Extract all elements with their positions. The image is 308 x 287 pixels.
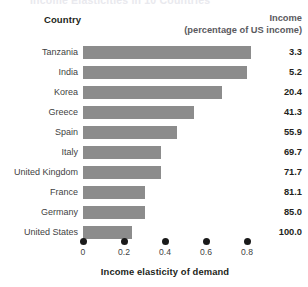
tick-dot-icon	[203, 238, 210, 245]
country-label: United Kingdom	[0, 167, 78, 177]
chart-row: Spain55.9	[0, 124, 308, 144]
bar-track	[83, 146, 253, 159]
tick-label: 0.2	[108, 247, 140, 257]
income-value: 100.0	[250, 227, 302, 237]
tick-label: 0.4	[149, 247, 181, 257]
chart-row: Korea20.4	[0, 84, 308, 104]
country-label: Korea	[0, 87, 78, 97]
tick-label: 0.8	[231, 247, 263, 257]
country-label: India	[0, 67, 78, 77]
bar-track	[83, 186, 253, 199]
column-header-country: Country	[44, 14, 81, 25]
country-label: Tanzania	[0, 47, 78, 57]
tick-label: 0	[67, 247, 99, 257]
chart-row: United Kingdom71.7	[0, 164, 308, 184]
income-value: 71.7	[250, 167, 302, 177]
country-label: Greece	[0, 107, 78, 117]
bar	[83, 126, 177, 139]
tick-dot-icon	[121, 238, 128, 245]
country-label: Italy	[0, 147, 78, 157]
country-label: Spain	[0, 127, 78, 137]
income-value: 41.3	[250, 107, 302, 117]
column-header-income: Income (percentage of US income)	[132, 13, 302, 36]
bar	[83, 166, 161, 179]
bar	[83, 146, 161, 159]
chart-row: Italy69.7	[0, 144, 308, 164]
country-label: France	[0, 187, 78, 197]
bar	[83, 46, 251, 59]
column-header-income-line1: Income	[269, 13, 302, 23]
income-value: 69.7	[250, 147, 302, 157]
bar	[83, 106, 194, 119]
bar-track	[83, 86, 253, 99]
bar-track	[83, 126, 253, 139]
chart-row: India5.2	[0, 64, 308, 84]
tick-dot-icon	[80, 238, 87, 245]
bar	[83, 186, 145, 199]
bar-track	[83, 46, 253, 59]
bar	[83, 66, 247, 79]
chart-rows: Tanzania3.3India5.2Korea20.4Greece41.3Sp…	[0, 44, 308, 244]
chart-row: France81.1	[0, 184, 308, 204]
chart-row: Tanzania3.3	[0, 44, 308, 64]
bar	[83, 206, 145, 219]
income-value: 81.1	[250, 187, 302, 197]
x-axis-title: Income elasticity of demand	[0, 266, 308, 277]
income-value: 20.4	[250, 87, 302, 97]
tick-dot-icon	[244, 238, 251, 245]
chart-row: Germany85.0	[0, 204, 308, 224]
bar-track	[83, 166, 253, 179]
income-value: 85.0	[250, 207, 302, 217]
bar-track	[83, 206, 253, 219]
tick-label: 0.6	[190, 247, 222, 257]
column-header-income-line2: (percentage of US income)	[132, 25, 302, 37]
income-value: 3.3	[250, 47, 302, 57]
bar	[83, 86, 222, 99]
bar-track	[83, 106, 253, 119]
figure-title: Income Elasticities in 10 Countries	[30, 0, 280, 6]
x-axis: 00.20.40.60.8	[0, 238, 308, 258]
chart-row: Greece41.3	[0, 104, 308, 124]
income-value: 55.9	[250, 127, 302, 137]
income-elasticity-figure: Income Elasticities in 10 Countries Coun…	[0, 0, 308, 287]
country-label: Germany	[0, 207, 78, 217]
country-label: United States	[0, 227, 78, 237]
tick-dot-icon	[162, 238, 169, 245]
income-value: 5.2	[250, 67, 302, 77]
bar-track	[83, 66, 253, 79]
